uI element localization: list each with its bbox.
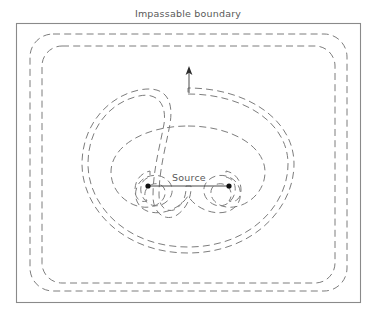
figure-root: Impassable boundary Source: [0, 0, 376, 321]
boundary-label: Impassable boundary: [135, 8, 241, 19]
diagram-canvas: Impassable boundary Source: [0, 0, 376, 321]
innermost-contour: [111, 126, 265, 213]
impassable-boundary-rect: [17, 24, 361, 303]
source-endpoint-right-dot: [226, 183, 231, 188]
source-label: Source: [172, 172, 206, 183]
second-contour: [82, 88, 294, 253]
source-endpoint-left-dot: [145, 183, 150, 188]
flow-direction-arrow: [186, 66, 193, 93]
